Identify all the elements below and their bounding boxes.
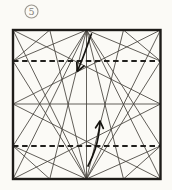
crease-line: [13, 146, 50, 179]
crease-line: [124, 146, 161, 179]
origami-step-diagram: 5: [0, 0, 172, 190]
crease-line: [87, 30, 161, 61]
crease-line: [13, 146, 87, 179]
step-badge: 5: [25, 5, 38, 18]
crease-line: [13, 30, 87, 146]
crease-lines-group: [13, 30, 161, 179]
crease-line: [87, 146, 161, 179]
origami-diagram-page: 5: [0, 0, 172, 190]
fold-arrow-bottom: [88, 122, 100, 166]
crease-line: [87, 61, 161, 179]
crease-line: [13, 30, 87, 61]
step-number: 5: [28, 6, 34, 17]
crease-line: [13, 61, 87, 179]
crease-line: [87, 30, 161, 146]
